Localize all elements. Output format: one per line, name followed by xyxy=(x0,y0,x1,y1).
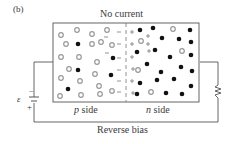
panel-label: (b) xyxy=(13,4,24,14)
battery-label: ε xyxy=(17,94,21,104)
p-side-label: p side xyxy=(74,104,98,115)
n-side-label: n side xyxy=(146,104,170,115)
battery-icon xyxy=(29,97,39,101)
pn-junction-diagram xyxy=(0,0,229,144)
junction-box xyxy=(53,23,199,102)
resistor-icon xyxy=(215,85,221,98)
caption: Reverse bias xyxy=(97,124,148,135)
battery-positive-sign: + xyxy=(27,102,32,112)
diagram-title: No current xyxy=(100,8,143,19)
battery-negative-sign: − xyxy=(29,87,34,96)
